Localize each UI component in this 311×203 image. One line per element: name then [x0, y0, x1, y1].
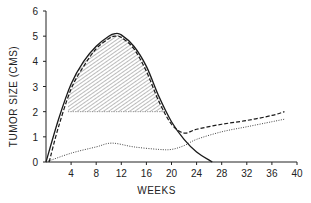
- x-axis-title: WEEKS: [137, 185, 176, 196]
- y-tick-label: 6: [32, 6, 38, 17]
- x-tick-label: 36: [266, 168, 278, 179]
- y-tick-label: 1: [32, 132, 38, 143]
- hatch-fill: [68, 11, 165, 112]
- x-tick-label: 12: [116, 168, 128, 179]
- x-tick-label: 24: [191, 168, 203, 179]
- x-tick-label: 20: [166, 168, 178, 179]
- y-axis-title: TUMOR SIZE (CMS): [8, 46, 19, 147]
- tumor-size-chart: 4812162024283236400123456WEEKSTUMOR SIZE…: [0, 0, 311, 203]
- y-tick-label: 3: [32, 82, 38, 93]
- y-tick-label: 5: [32, 31, 38, 42]
- y-tick-label: 2: [32, 107, 38, 118]
- hatched-region: [68, 11, 165, 112]
- x-tick-label: 28: [216, 168, 228, 179]
- x-tick-label: 40: [291, 168, 303, 179]
- plot-area: 4812162024283236400123456WEEKSTUMOR SIZE…: [0, 0, 311, 203]
- series-line-dotted: [46, 119, 284, 162]
- x-tick-label: 16: [141, 168, 153, 179]
- x-tick-label: 4: [68, 168, 74, 179]
- y-tick-label: 4: [32, 56, 38, 67]
- y-tick-label: 0: [32, 157, 38, 168]
- x-tick-label: 8: [93, 168, 99, 179]
- x-tick-label: 32: [241, 168, 253, 179]
